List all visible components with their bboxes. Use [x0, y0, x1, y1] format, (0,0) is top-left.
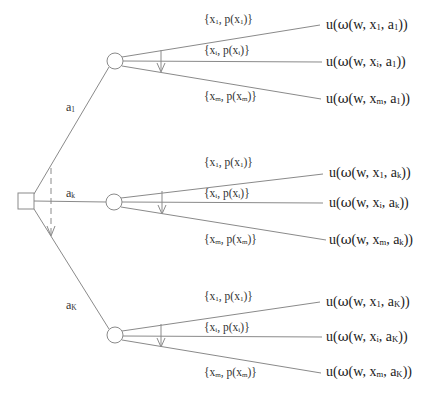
outcome-edge-aK-xi: [123, 336, 322, 337]
utility-a1-xi: u(ω(w, xi, a1)): [326, 55, 406, 69]
outcome-label-aK-x1: {x1, p(x1)}: [204, 291, 253, 303]
utility-ak-xm: u(ω(w, xm, ak)): [329, 233, 413, 247]
outcome-label-a1-xi: {xi, p(xi)}: [204, 45, 250, 57]
utility-ak-x1: u(ω(w, x1, ak)): [329, 166, 411, 180]
decision-node: [18, 193, 34, 209]
utility-a1-x1: u(ω(w, x1, a1)): [326, 18, 408, 32]
outcome-edge-a1-xi: [123, 61, 322, 62]
utility-ak-xi: u(ω(w, xi, ak)): [329, 196, 409, 210]
action-label-aK: aK: [66, 299, 77, 311]
chance-node-aK: [107, 327, 123, 343]
outcome-label-ak-x1: {x1, p(x1)}: [204, 157, 253, 169]
utility-aK-xi: u(ω(w, xi, aK)): [326, 330, 408, 344]
utility-a1-xm: u(ω(w, xm, a1)): [326, 92, 410, 106]
outcome-label-aK-xi: {xi, p(xi)}: [204, 322, 250, 334]
action-label-a1: a1: [66, 101, 75, 113]
outcome-label-ak-xi: {xi, p(xi)}: [204, 188, 250, 200]
outcome-label-ak-xm: {xm, p(xm)}: [204, 234, 257, 246]
outcome-label-a1-x1: {x1, p(x1)}: [204, 14, 253, 26]
chance-node-ak: [106, 194, 122, 210]
outcome-edge-ak-xi: [122, 202, 323, 203]
action-label-ak: ak: [66, 187, 75, 199]
chance-node-a1: [107, 53, 123, 69]
outcome-label-a1-xm: {xm, p(xm)}: [204, 91, 257, 103]
action-edge-a1: [34, 67, 109, 194]
outcome-label-aK-xm: {xm, p(xm)}: [204, 367, 257, 379]
utility-aK-x1: u(ω(w, x1, aK)): [326, 295, 410, 309]
utility-aK-xm: u(ω(w, xm, aK)): [326, 365, 412, 379]
action-edge-ak: [34, 201, 106, 202]
